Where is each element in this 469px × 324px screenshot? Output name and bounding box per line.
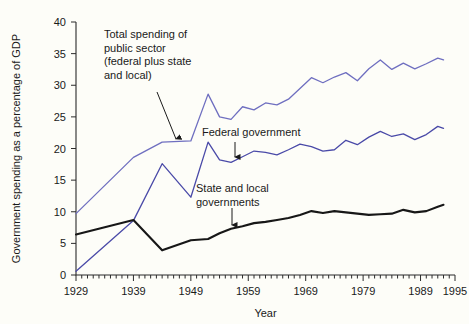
series-line (76, 205, 444, 251)
y-tick-label: 35 (54, 48, 66, 60)
x-tick-label: 1979 (351, 285, 375, 297)
line-chart-canvas: 0510152025303540 19291939194919591969197… (0, 0, 469, 324)
y-tick-label: 40 (54, 16, 66, 28)
annotation-label-federal-government: Federal government (202, 126, 300, 138)
x-tick-label: 1995 (443, 285, 467, 297)
series-line (76, 126, 444, 271)
y-tick-label: 0 (60, 269, 66, 281)
annotations: Total spending ofpublic sector(federal p… (104, 28, 300, 225)
y-tick-label: 10 (54, 206, 66, 218)
y-tick-label: 15 (54, 174, 66, 186)
annotation-label-state-and-local: State and localgovernments (196, 182, 269, 208)
chart-figure: 0510152025303540 19291939194919591969197… (0, 0, 469, 324)
y-tick-label: 20 (54, 143, 66, 155)
x-axis-title: Year (254, 307, 277, 319)
x-tick-label: 1929 (64, 285, 88, 297)
y-tick-labels: 0510152025303540 (54, 16, 66, 281)
annotation-arrow-total-spending (157, 92, 176, 139)
y-axis-title: Government spending as a percentage of G… (10, 34, 22, 263)
annotation-label-total-spending: Total spending ofpublic sector(federal p… (104, 28, 191, 81)
x-tick-label: 1959 (236, 285, 260, 297)
x-tick-label: 1939 (121, 285, 145, 297)
y-tick-label: 5 (60, 237, 66, 249)
y-tick-label: 25 (54, 111, 66, 123)
x-tick-label: 1949 (179, 285, 203, 297)
y-tick-label: 30 (54, 79, 66, 91)
x-tick-labels: 19291939194919591969197919891995 (64, 285, 467, 297)
x-tick-label: 1969 (293, 285, 317, 297)
data-series (76, 58, 444, 271)
x-tick-label: 1989 (408, 285, 432, 297)
